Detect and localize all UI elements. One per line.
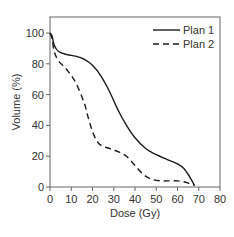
x-tick-label: 40 <box>129 193 141 205</box>
dose-volume-chart: 020406080100 01020304050607080 Plan 1 Pl… <box>0 0 234 237</box>
y-tick-label: 20 <box>32 150 44 162</box>
chart-series <box>50 33 195 185</box>
x-tick-label: 80 <box>214 193 226 205</box>
x-tick-label: 20 <box>86 193 98 205</box>
y-tick-label: 40 <box>32 119 44 131</box>
x-tick-label: 60 <box>171 193 183 205</box>
x-axis-label: Dose (Gy) <box>110 207 160 219</box>
plan-1-line <box>50 33 195 185</box>
legend-label-plan-2: Plan 2 <box>183 38 214 50</box>
legend-label-plan-1: Plan 1 <box>183 24 214 36</box>
x-tick-label: 70 <box>193 193 205 205</box>
y-tick-label: 80 <box>32 58 44 70</box>
legend: Plan 1 Plan 2 <box>153 24 214 50</box>
x-tick-label: 0 <box>47 193 53 205</box>
x-axis-ticks: 01020304050607080 <box>47 187 226 205</box>
x-tick-label: 10 <box>65 193 77 205</box>
y-axis-ticks: 020406080100 <box>26 27 50 193</box>
x-tick-label: 30 <box>108 193 120 205</box>
y-tick-label: 100 <box>26 27 44 39</box>
x-tick-label: 50 <box>150 193 162 205</box>
y-tick-label: 0 <box>38 181 44 193</box>
y-axis-label: Volume (%) <box>10 74 22 131</box>
y-tick-label: 60 <box>32 89 44 101</box>
